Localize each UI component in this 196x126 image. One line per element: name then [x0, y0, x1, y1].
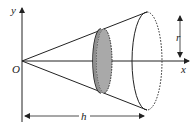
diagram-canvas: y x O r h	[0, 0, 196, 126]
radius-label: r	[176, 31, 181, 43]
y-axis-label: y	[10, 4, 16, 16]
origin-label: O	[12, 63, 20, 75]
height-label: h	[81, 110, 87, 122]
cone-top-edge	[22, 12, 147, 61]
cone-bottom-edge	[22, 61, 147, 110]
cone-diagram: y x O r h	[0, 0, 196, 126]
disc-slice	[96, 29, 112, 93]
x-axis-label: x	[180, 63, 186, 75]
